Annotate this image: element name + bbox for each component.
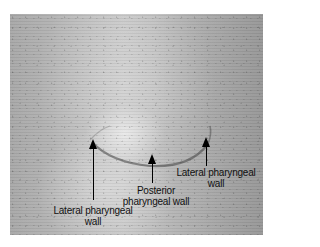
label-line: wall bbox=[168, 178, 264, 189]
label-lateral-right: Lateral pharyngeal wall bbox=[168, 167, 264, 189]
arrow-shaft bbox=[152, 163, 153, 183]
label-lateral-left: Lateral pharyngeal wall bbox=[45, 205, 141, 227]
arrow-shaft bbox=[206, 146, 207, 166]
label-line: wall bbox=[45, 216, 141, 227]
arrow-shaft bbox=[93, 148, 94, 200]
label-line: Lateral pharyngeal bbox=[168, 167, 264, 178]
label-line: pharyngeal wall bbox=[118, 196, 194, 207]
